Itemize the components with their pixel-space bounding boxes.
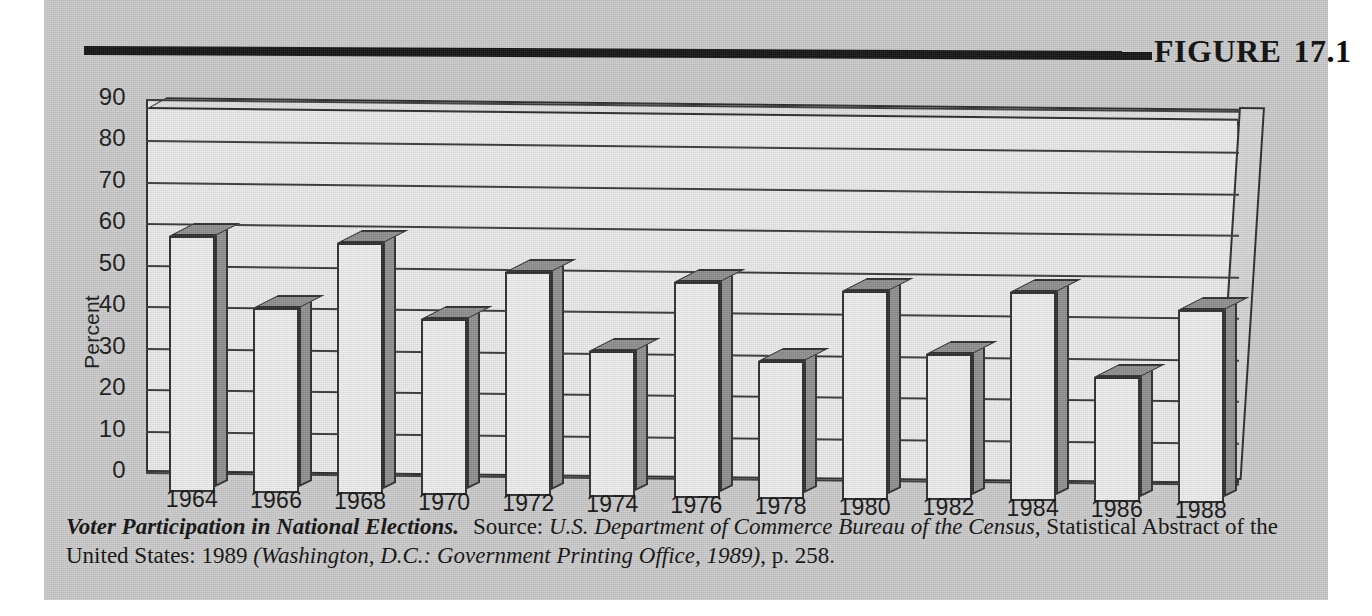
bar-face [758, 361, 804, 499]
header-rule-dash [1120, 52, 1152, 60]
x-tick-1964: 1964 [155, 486, 229, 513]
bar-side [383, 230, 396, 488]
bar-1974 [589, 351, 635, 497]
bar-face [674, 282, 720, 498]
y-tick-30: 30 [64, 332, 126, 360]
bar-1976 [674, 282, 720, 498]
y-tick-40: 40 [64, 290, 126, 318]
figure-page: FIGURE17.1 Percent 9080706050403020100 1… [44, 0, 1328, 600]
caption-source-label: Source: [473, 514, 543, 539]
figure-label: FIGURE17.1 [1154, 33, 1334, 70]
x-tick-1966: 1966 [239, 487, 313, 514]
y-tick-60: 60 [64, 207, 126, 235]
caption-source-italic-2: (Washington, D.C.: Government Printing O… [253, 543, 760, 568]
chart: Percent 9080706050403020100 196419661968… [44, 80, 1328, 500]
x-tick-1976: 1976 [660, 492, 734, 519]
bar-side [972, 341, 985, 494]
bar-side [635, 339, 648, 491]
bar-face [842, 291, 888, 500]
bar-1984 [1010, 292, 1056, 501]
bar-side [1056, 280, 1069, 495]
bar-face [926, 354, 972, 501]
bar-side [1140, 364, 1153, 496]
header-rule [84, 46, 1122, 60]
bar-face [1010, 292, 1056, 501]
bar-face [169, 236, 215, 493]
bar-1986 [1094, 377, 1140, 503]
x-tick-1988: 1988 [1164, 497, 1238, 524]
x-tick-1972: 1972 [491, 490, 565, 517]
y-tick-90: 90 [64, 83, 126, 111]
bar-face [253, 308, 299, 493]
bar-1972 [505, 272, 551, 496]
x-tick-1986: 1986 [1080, 496, 1154, 523]
bar-face [1178, 310, 1224, 503]
bar-1978 [758, 361, 804, 499]
caption-title: Voter Participation in National Election… [66, 514, 459, 539]
x-tick-1970: 1970 [407, 489, 481, 516]
y-tick-80: 80 [64, 124, 126, 152]
bar-face [337, 243, 383, 495]
x-tick-1978: 1978 [744, 493, 818, 520]
bar-side [551, 260, 564, 490]
y-tick-10: 10 [64, 415, 126, 443]
bar-side [888, 278, 901, 493]
plot-area: 1964196619681970197219741976197819801982… [146, 99, 1286, 492]
bar-1980 [842, 291, 888, 500]
bar-1988 [1178, 310, 1224, 503]
y-tick-70: 70 [64, 166, 126, 194]
figure-label-word: FIGURE [1154, 33, 1281, 69]
y-tick-50: 50 [64, 249, 126, 277]
y-tick-20: 20 [64, 373, 126, 401]
x-tick-1968: 1968 [323, 488, 397, 515]
bar-side [299, 296, 312, 487]
x-tick-1984: 1984 [996, 495, 1070, 522]
bar-1970 [421, 319, 467, 495]
bar-face [589, 351, 635, 497]
caption-source-roman-2: , p. 258. [760, 543, 835, 568]
bar-1968 [337, 243, 383, 495]
bar-1966 [253, 308, 299, 493]
bar-1964 [169, 236, 215, 493]
figure-label-number: 17.1 [1293, 33, 1351, 69]
bar-side [1224, 298, 1237, 497]
bar-side [467, 307, 480, 489]
y-tick-0: 0 [64, 456, 126, 484]
bar-side [720, 270, 733, 492]
x-tick-1982: 1982 [912, 494, 986, 521]
x-tick-1974: 1974 [575, 491, 649, 518]
bar-face [1094, 377, 1140, 503]
x-tick-1980: 1980 [828, 494, 902, 521]
bar-face [505, 272, 551, 496]
bar-side [215, 223, 228, 486]
bar-face [421, 319, 467, 495]
bar-1982 [926, 354, 972, 501]
bar-side [804, 348, 817, 492]
